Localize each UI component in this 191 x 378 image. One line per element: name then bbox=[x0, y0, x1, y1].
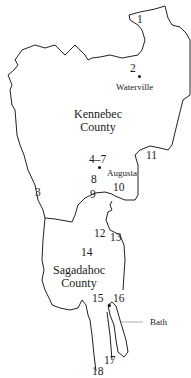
town-label-waterville: Waterville bbox=[116, 83, 153, 92]
sagadahoc-boundary bbox=[42, 218, 96, 371]
site-label-9: 9 bbox=[90, 189, 96, 201]
site-label-4-7: 4–7 bbox=[89, 154, 106, 166]
town-label-augusta: Augusta bbox=[107, 169, 137, 178]
town-label-bath: Bath bbox=[150, 318, 167, 327]
county-label-kennebec: Kennebec County bbox=[68, 108, 128, 133]
site-label-2: 2 bbox=[130, 63, 136, 75]
augusta-dot bbox=[98, 166, 101, 169]
site-label-17: 17 bbox=[104, 355, 116, 367]
bath-dot bbox=[108, 304, 111, 307]
site-label-8: 8 bbox=[91, 174, 97, 186]
site-label-14: 14 bbox=[81, 247, 93, 259]
site-label-1: 1 bbox=[137, 14, 143, 26]
site-label-13: 13 bbox=[110, 232, 122, 244]
waterville-dot bbox=[138, 75, 141, 78]
site-label-15: 15 bbox=[92, 293, 104, 305]
site-label-12: 12 bbox=[94, 228, 106, 240]
site-label-11: 11 bbox=[146, 150, 157, 162]
site-label-16: 16 bbox=[113, 293, 125, 305]
site-label-18: 18 bbox=[92, 366, 104, 378]
county-label-sagadahoc: Sagadahoc County bbox=[48, 264, 110, 289]
site-label-10: 10 bbox=[113, 182, 125, 194]
site-label-3: 3 bbox=[35, 187, 41, 199]
